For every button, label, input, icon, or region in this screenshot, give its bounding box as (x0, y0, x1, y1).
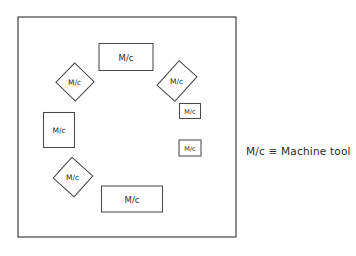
machine-shapes-group: M/cM/cM/cM/cM/cM/cM/cM/c (44, 44, 202, 213)
machine-label: M/c (68, 78, 81, 87)
machine-label: M/c (184, 108, 196, 116)
machine-tool-lower-left: M/c (53, 157, 93, 197)
machine-tool-bottom: M/c (102, 186, 163, 212)
machine-tool-upper-right: M/c (157, 61, 197, 102)
machine-label: M/c (184, 145, 196, 153)
machine-label: M/c (119, 53, 134, 63)
machine-tool-upper-left: M/c (56, 63, 94, 101)
cell-layout-diagram: M/cM/cM/cM/cM/cM/cM/cM/c (0, 0, 356, 256)
machine-tool-left: M/c (44, 113, 75, 148)
machine-tool-right-upper: M/c (180, 104, 201, 119)
machine-label: M/c (125, 195, 140, 205)
machine-tool-top: M/c (99, 44, 153, 71)
machine-label: M/c (52, 126, 65, 135)
machine-label: M/c (66, 173, 79, 182)
machine-tool-right-lower: M/c (179, 140, 201, 156)
diagram-root: M/cM/cM/cM/cM/cM/cM/cM/c M/c ≡ Machine t… (0, 0, 356, 256)
legend-machine-tool: M/c ≡ Machine tool (246, 145, 351, 157)
machine-label: M/c (170, 77, 183, 86)
